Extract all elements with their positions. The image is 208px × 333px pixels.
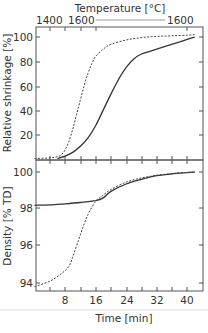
- top-panel-frame: [36, 27, 203, 160]
- x-tick-label: 8: [62, 294, 69, 306]
- y-tick-label: 96: [20, 239, 34, 251]
- bottom-panel-frame: [36, 160, 203, 291]
- y-tick-label: 100: [13, 166, 33, 178]
- x-axis-title: Time [min]: [94, 312, 152, 324]
- bottom-y-axis-title: Density [% TD]: [1, 186, 13, 265]
- y-tick-label: 40: [20, 105, 33, 117]
- y-tick-label: 94: [20, 277, 34, 289]
- x-tick-label: 24: [120, 294, 134, 306]
- density-solid-line: [35, 172, 195, 205]
- top-tick-label: 1600: [68, 14, 95, 26]
- x-tick-label: 40: [180, 294, 193, 306]
- top-axis-title: Temperature [°C]: [74, 2, 166, 14]
- shrinkage-dashed-line: [35, 35, 195, 159]
- axis-ticks: [36, 27, 203, 291]
- x-tick-label: 16: [89, 294, 103, 306]
- x-tick-label: 32: [150, 294, 163, 306]
- y-tick-label: 60: [20, 81, 33, 93]
- shrinkage-solid-line: [57, 37, 195, 159]
- top-tick-label: 1600: [167, 14, 194, 26]
- y-tick-label: 98: [20, 202, 33, 214]
- sintering-chart: Temperature [°C] 1400 1600 1600 100 80 6…: [0, 0, 208, 333]
- data-series: [35, 35, 195, 287]
- top-y-axis-title: Relative shrinkage [%]: [1, 34, 13, 153]
- top-tick-label: 1400: [36, 14, 63, 26]
- y-tick-label: 20: [20, 129, 33, 141]
- y-tick-label: 100: [13, 31, 33, 43]
- y-tick-label: 80: [20, 56, 33, 68]
